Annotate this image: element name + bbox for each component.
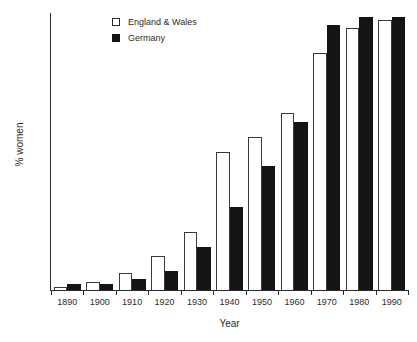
y-axis-ticks: 020406080100 <box>0 0 51 342</box>
legend-label: Germany <box>128 33 165 43</box>
bar-chart: % women 020406080100 1890190019101920193… <box>0 0 417 342</box>
legend-item-england-wales: England & Wales <box>112 15 197 29</box>
bar-germany-1990 <box>392 17 406 290</box>
x-tick-label: 1900 <box>90 297 110 308</box>
x-tick-label: 1910 <box>122 297 142 308</box>
legend-label: England & Wales <box>128 17 197 27</box>
x-tick-label: 1930 <box>187 297 207 308</box>
bar-germany-1980 <box>359 17 373 290</box>
bar-england-wales-1950 <box>248 137 262 290</box>
x-tick-mark <box>51 291 52 295</box>
bar-england-wales-1990 <box>378 20 392 290</box>
bar-germany-1940 <box>230 207 244 290</box>
bar-england-wales-1960 <box>281 113 295 290</box>
x-tick-label: 1920 <box>155 297 175 308</box>
x-tick-label: 1960 <box>284 297 304 308</box>
bar-england-wales-1980 <box>346 28 360 290</box>
bar-germany-1950 <box>262 166 276 290</box>
open-square-icon <box>112 18 120 26</box>
plot-area <box>51 14 408 290</box>
x-tick-mark <box>311 291 312 295</box>
x-tick-mark <box>343 291 344 295</box>
x-tick-mark <box>148 291 149 295</box>
x-tick-mark <box>376 291 377 295</box>
bar-germany-1960 <box>294 122 308 290</box>
x-tick-mark <box>246 291 247 295</box>
bar-group <box>51 14 408 290</box>
bar-germany-1920 <box>165 271 179 290</box>
x-tick-mark <box>83 291 84 295</box>
x-axis-ticks: 1890190019101920193019401950196019701980… <box>51 291 408 315</box>
bar-england-wales-1920 <box>151 256 165 291</box>
x-tick-mark <box>116 291 117 295</box>
bar-england-wales-1970 <box>313 53 327 290</box>
bar-england-wales-1900 <box>86 282 100 290</box>
bar-england-wales-1940 <box>216 152 230 290</box>
bar-england-wales-1890 <box>54 287 68 290</box>
x-tick-label: 1890 <box>57 297 77 308</box>
bar-germany-1900 <box>100 284 114 290</box>
x-axis-title: Year <box>51 318 408 329</box>
bar-england-wales-1930 <box>184 232 198 290</box>
bar-england-wales-1910 <box>119 273 133 290</box>
bar-germany-1910 <box>132 279 146 290</box>
bar-germany-1930 <box>197 247 211 290</box>
x-tick-mark <box>181 291 182 295</box>
x-tick-label: 1990 <box>382 297 402 308</box>
filled-square-icon <box>112 34 120 42</box>
bar-germany-1970 <box>327 25 341 290</box>
x-tick-label: 1970 <box>317 297 337 308</box>
bar-germany-1890 <box>67 284 81 290</box>
x-tick-label: 1950 <box>252 297 272 308</box>
x-tick-label: 1980 <box>349 297 369 308</box>
x-tick-mark <box>408 291 409 295</box>
x-tick-mark <box>213 291 214 295</box>
x-tick-label: 1940 <box>219 297 239 308</box>
chart-legend: England & Wales Germany <box>112 15 197 47</box>
legend-item-germany: Germany <box>112 31 197 45</box>
x-tick-mark <box>278 291 279 295</box>
